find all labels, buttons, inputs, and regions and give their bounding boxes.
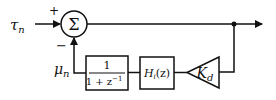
feedback-label: μn: [54, 61, 70, 79]
block-diagram: τn + Σ − Kd Hi(z) 1 1 + z−1 μn: [0, 0, 276, 100]
gain-block: Kd: [187, 57, 219, 88]
sum-symbol: Σ: [68, 15, 79, 34]
feedback-arrow: [74, 38, 86, 73]
integrator-block: 1 1 + z−1: [86, 56, 128, 90]
filter-label: Hi(z): [143, 67, 170, 81]
input-label: τn: [10, 16, 25, 35]
plus-sign: +: [49, 4, 59, 18]
minus-sign: −: [56, 38, 67, 53]
summing-junction: Σ: [61, 11, 87, 37]
filter-block: Hi(z): [140, 57, 174, 89]
feedback-path: [219, 24, 234, 72]
integrator-numerator: 1: [104, 59, 111, 72]
